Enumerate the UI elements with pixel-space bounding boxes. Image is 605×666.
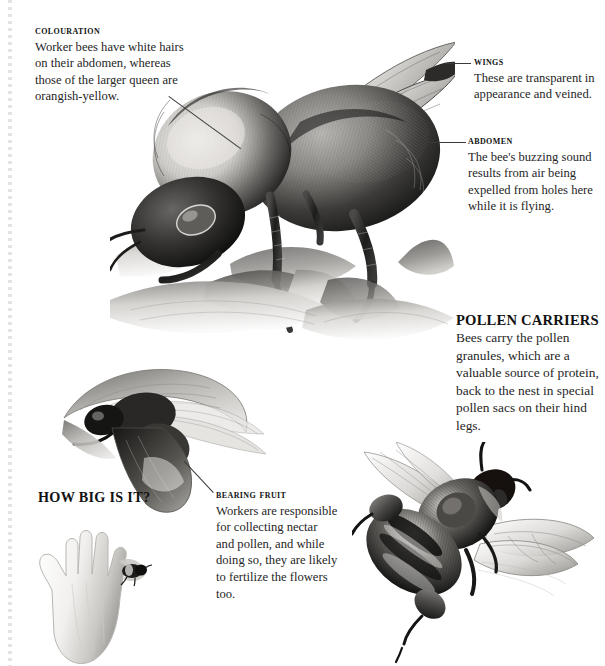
callout-body-bearing-fruit: Workers are responsible for collecting n… <box>216 503 338 603</box>
callout-heading-colouration: Colouration <box>35 24 195 37</box>
callout-bearing-fruit: Bearing fruit Workers are responsible fo… <box>216 488 338 602</box>
callout-body-pollen-carriers: Bees carry the pollen granules, which ar… <box>456 329 602 435</box>
callout-body-colouration: Worker bees have white hairs on their ab… <box>35 39 195 105</box>
callout-pollen-carriers: POLLEN CARRIERS Bees carry the pollen gr… <box>456 312 602 435</box>
callout-colouration: Colouration Worker bees have white hairs… <box>35 24 195 105</box>
callout-heading-wings: Wings <box>474 55 598 68</box>
scale-section-label: HOW BIG IS IT? <box>38 489 150 506</box>
callout-heading-bearing-fruit: Bearing fruit <box>216 488 338 501</box>
infographic-page: Colouration Worker bees have white hairs… <box>0 0 605 666</box>
callout-body-abdomen: The bee's buzzing sound results from air… <box>468 149 600 215</box>
leader-line-wings <box>445 63 471 64</box>
flying-bee-wing-lower <box>474 519 594 596</box>
callout-heading-pollen-carriers: POLLEN CARRIERS <box>456 312 602 328</box>
leader-line-abdomen <box>416 142 466 143</box>
illustration-scale-bee <box>115 555 153 587</box>
callout-wings: Wings These are transparent in appearanc… <box>474 55 598 103</box>
callout-body-wings: These are transparent in appearance and … <box>474 70 598 103</box>
callout-heading-abdomen: Abdomen <box>468 134 600 147</box>
illustration-flying-bee-pollen-sacs <box>352 442 602 666</box>
perforation-rule <box>8 0 12 666</box>
illustration-hand-silhouette <box>36 524 148 666</box>
callout-abdomen: Abdomen The bee's buzzing sound results … <box>468 134 600 215</box>
